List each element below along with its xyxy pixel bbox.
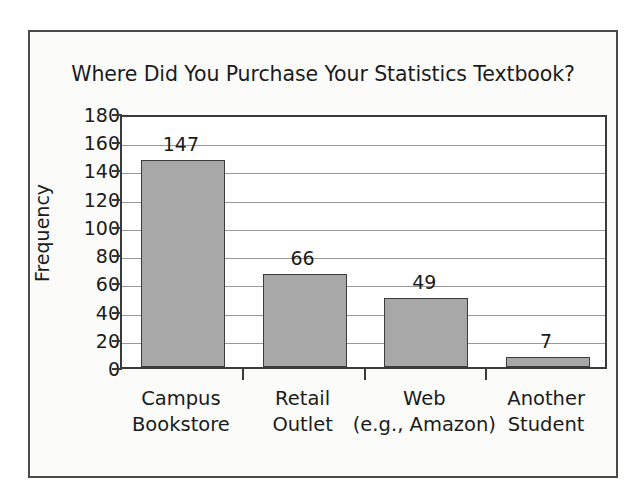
chart-title: Where Did You Purchase Your Statistics T…: [28, 62, 618, 86]
y-axis-tick-label: 0: [60, 358, 120, 380]
y-axis-tick-label: 40: [60, 302, 120, 324]
y-axis-tick-label: 160: [60, 132, 120, 154]
y-axis-tick-label: 140: [60, 160, 120, 182]
y-axis-tick-label: 100: [60, 217, 120, 239]
bar-chart-figure: Where Did You Purchase Your Statistics T…: [0, 0, 642, 498]
bar-value-label: 49: [384, 271, 464, 293]
y-axis-tick-label: 80: [60, 245, 120, 267]
bar: [141, 160, 225, 367]
y-axis-ticks: 180160140120100806040200: [46, 115, 120, 369]
bar-value-label: 7: [506, 330, 586, 352]
x-axis-category-tick: [242, 369, 244, 380]
bar-value-label: 147: [141, 133, 221, 155]
x-axis-category-label-line: Another: [466, 386, 626, 412]
y-axis-tick-label: 20: [60, 330, 120, 352]
x-axis-category-label: AnotherStudent: [466, 386, 626, 437]
bar: [506, 357, 590, 367]
bar-value-label: 66: [263, 247, 343, 269]
bar: [263, 274, 347, 367]
x-axis-category-tick: [485, 369, 487, 380]
y-axis-tick-label: 60: [60, 273, 120, 295]
y-axis-tick-label: 120: [60, 189, 120, 211]
x-axis-category-tick: [364, 369, 366, 380]
y-axis-tick-label: 180: [60, 104, 120, 126]
bar: [384, 298, 468, 367]
x-axis-category-label-line: Student: [466, 412, 626, 438]
